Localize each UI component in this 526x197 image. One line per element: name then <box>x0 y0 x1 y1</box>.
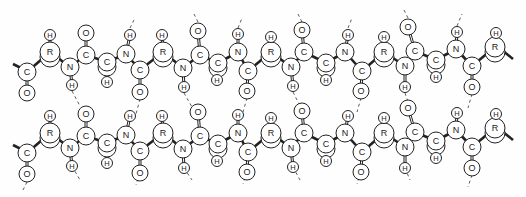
hydrogen-atom: H <box>321 75 332 86</box>
hydrogen-atom: H <box>157 30 168 41</box>
polypeptide-chains-svg: CORHNHCOCHNHCORHNHCOCHNHCORHNHCOCHNHCORH… <box>0 0 526 197</box>
hydrogen-bond-dash <box>468 94 472 108</box>
hydrogen-bond-dash <box>404 10 408 18</box>
atom-label: H <box>345 112 350 121</box>
carbon-atom: C <box>98 134 116 157</box>
atom-label: O <box>136 87 143 97</box>
nitrogen-atom: N <box>174 59 192 77</box>
side-chain-group: R <box>485 118 505 143</box>
side-chain-group: R <box>261 42 281 67</box>
atom-label: C <box>24 67 31 77</box>
hydrogen-atom: H <box>288 162 299 173</box>
atom-label: O <box>82 28 89 38</box>
atom-label: H <box>454 109 459 118</box>
hydrogen-bond-dash <box>298 14 302 22</box>
atom-label: N <box>402 61 409 71</box>
atom-label: O <box>468 82 475 92</box>
atom-label: N <box>67 143 74 153</box>
atom-label: C <box>433 136 440 146</box>
hydrogen-atom: H <box>233 110 244 121</box>
oxygen-atom: O <box>132 165 148 181</box>
carbon-atom: C <box>317 135 335 158</box>
nitrogen-atom: N <box>229 124 247 142</box>
side-chain-group: R <box>40 123 60 148</box>
oxygen-atom: O <box>190 23 206 39</box>
hydrogen-bond-dash <box>357 98 361 112</box>
nitrogen-atom: N <box>282 139 300 157</box>
oxygen-atom: O <box>464 79 480 95</box>
atom-label: C <box>137 146 144 156</box>
atom-label: N <box>288 62 295 72</box>
atom-label: O <box>404 22 411 32</box>
carbon-atom: C <box>18 63 36 81</box>
atom-label: H <box>345 31 350 40</box>
atom-label: R <box>268 128 275 138</box>
atom-label: H <box>323 157 328 166</box>
hydrogen-atom: H <box>491 28 502 39</box>
atom-label: C <box>433 55 440 65</box>
atom-label: O <box>194 26 201 36</box>
atom-label: R <box>492 42 499 52</box>
atom-label: C <box>359 66 366 76</box>
atom-label: H <box>235 30 240 39</box>
carbon-atom: C <box>427 51 445 74</box>
carbon-atom: C <box>239 62 257 80</box>
carbon-atom: C <box>463 138 481 156</box>
nitrogen-atom: N <box>61 139 79 157</box>
atom-label: N <box>402 142 409 152</box>
atom-label: H <box>69 81 74 90</box>
atom-label: O <box>357 86 364 96</box>
hydrogen-atom: H <box>45 30 56 41</box>
atom-label: N <box>342 47 349 57</box>
atom-label: O <box>82 109 89 119</box>
atom-label: C <box>104 57 111 67</box>
side-chain-group: R <box>40 42 60 67</box>
carbon-atom: C <box>209 54 227 77</box>
carbon-atom: C <box>427 132 445 155</box>
atom-label: H <box>402 164 407 173</box>
atom-label: H <box>127 112 132 121</box>
atom-label: C <box>245 147 252 157</box>
side-chain-group: R <box>153 42 173 67</box>
atom-label: N <box>453 44 460 54</box>
carbon-atom: C <box>209 135 227 158</box>
hydrogen-bond-dash <box>468 175 472 187</box>
atom-label: C <box>469 142 476 152</box>
hydrogen-atom: H <box>45 111 56 122</box>
oxygen-atom: O <box>400 100 416 116</box>
nitrogen-atom: N <box>336 43 354 61</box>
carbon-atom: C <box>317 54 335 77</box>
carbon-atom: C <box>131 61 149 79</box>
atom-label: H <box>323 76 328 85</box>
hydrogen-bond-dash <box>130 18 135 28</box>
carbon-atom: C <box>191 46 209 64</box>
carbon-atom: C <box>295 124 313 142</box>
atom-label: H <box>69 162 74 171</box>
atom-label: O <box>136 168 143 178</box>
side-chain-group: R <box>153 123 173 148</box>
atom-label: H <box>268 33 273 42</box>
oxygen-atom: O <box>78 25 94 41</box>
atom-label: H <box>433 154 438 163</box>
atom-label: C <box>323 139 330 149</box>
hydrogen-atom: H <box>102 158 113 169</box>
hydrogen-atom: H <box>491 109 502 120</box>
atom-label: C <box>24 148 31 158</box>
atom-label: H <box>290 163 295 172</box>
atom-label: C <box>359 147 366 157</box>
oxygen-atom: O <box>353 164 369 180</box>
atom-label: C <box>197 131 204 141</box>
atom-label: R <box>381 128 388 138</box>
side-chain-group: R <box>374 42 394 67</box>
hydrogen-atom: H <box>452 27 463 38</box>
beta-sheet-diagram: CORHNHCOCHNHCORHNHCOCHNHCORHNHCOCHNHCORH… <box>0 0 526 197</box>
hydrogen-atom: H <box>102 77 113 88</box>
atom-label: N <box>235 128 242 138</box>
atom-label: H <box>214 157 219 166</box>
atom-label: R <box>492 123 499 133</box>
carbon-atom: C <box>191 127 209 145</box>
hydrogen-atom: H <box>400 82 411 93</box>
hydrogen-bond-dash <box>348 18 352 28</box>
carbon-atom: C <box>77 127 95 145</box>
hydrogen-bond-dash <box>194 14 198 22</box>
